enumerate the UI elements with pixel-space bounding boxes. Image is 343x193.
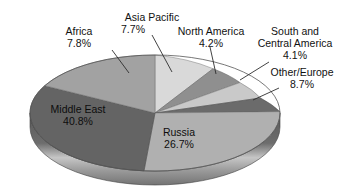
label-africa-value: 7.8% [50,37,108,49]
pie-chart-figure: Africa 7.8% Asia Pacific 7.7% North Amer… [0,0,343,193]
label-other-europe-value: 8.7% [261,78,343,90]
label-other-europe: Other/Europe 8.7% [261,66,343,90]
label-middle-east-value: 40.8% [36,115,120,127]
label-south-central-america-line1: South and [271,25,319,37]
label-asia-pacific-name: Asia Pacific [125,11,179,23]
label-north-america: North America 4.2% [168,25,254,49]
label-middle-east-name: Middle East [51,103,106,115]
label-africa: Africa 7.8% [50,25,108,49]
label-south-central-america-line2: Central America [247,37,343,49]
label-africa-name: Africa [66,25,93,37]
label-other-europe-name: Other/Europe [270,66,333,78]
label-middle-east: Middle East 40.8% [36,103,120,127]
label-south-central-america: South and Central America 4.1% [247,25,343,61]
label-russia: Russia 26.7% [150,126,208,150]
label-russia-name: Russia [163,126,195,138]
label-south-central-america-value: 4.1% [247,49,343,61]
label-north-america-value: 4.2% [168,37,254,49]
label-asia-pacific-value: 7.7% [108,23,158,35]
label-north-america-name: North America [178,25,245,37]
label-russia-value: 26.7% [150,138,208,150]
